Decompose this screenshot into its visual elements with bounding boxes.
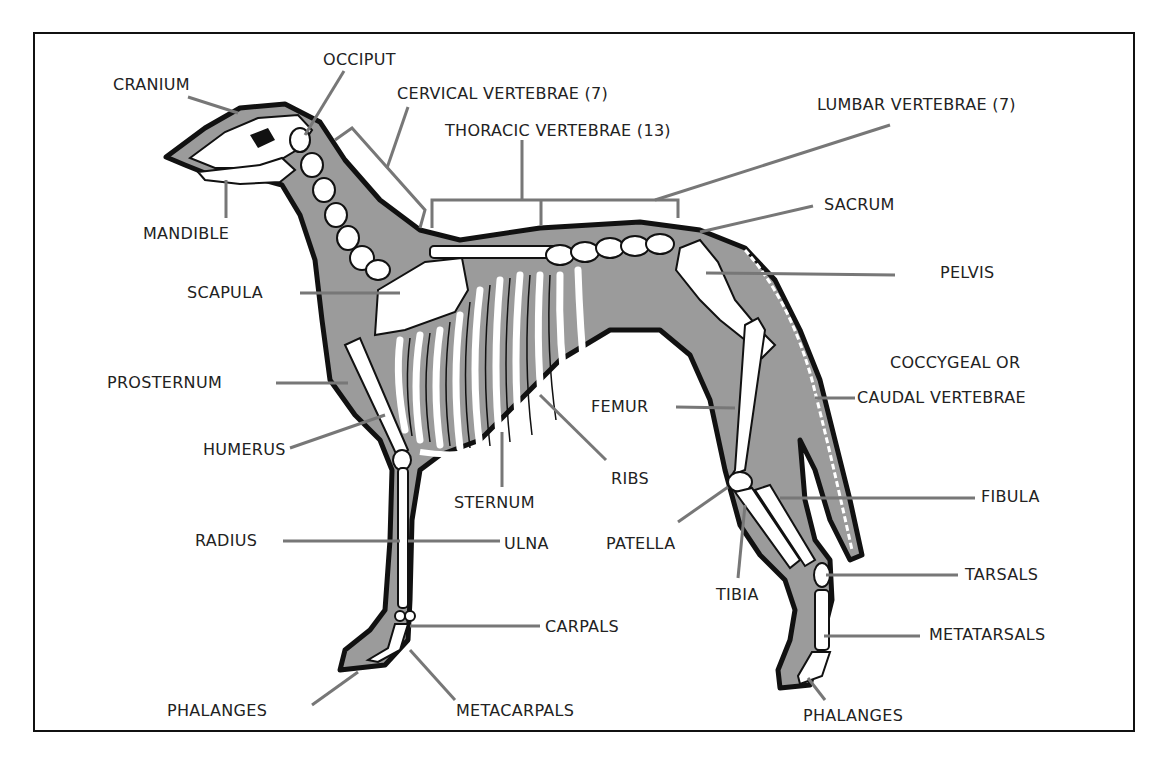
label-sacrum: SACRUM [824, 196, 895, 214]
label-ulna: ULNA [504, 535, 549, 553]
label-femur: FEMUR [591, 398, 648, 416]
label-phalanges-hind: PHALANGES [803, 707, 903, 725]
label-metacarpals: METACARPALS [456, 702, 574, 720]
label-pelvis: PELVIS [940, 264, 995, 282]
label-occiput: OCCIPUT [323, 51, 396, 69]
label-cranium: CRANIUM [113, 76, 190, 94]
label-coccygeal-line2: CAUDAL VERTEBRAE [857, 389, 1026, 407]
thoracic-bracket [432, 140, 678, 228]
label-cervical-vertebrae: CERVICAL VERTEBRAE (7) [397, 85, 608, 103]
label-patella: PATELLA [606, 535, 675, 553]
label-tarsals: TARSALS [965, 566, 1038, 584]
label-ribs: RIBS [611, 470, 649, 488]
label-thoracic-vertebrae: THORACIC VERTEBRAE (13) [445, 122, 671, 140]
label-metatarsals: METATARSALS [929, 626, 1046, 644]
label-coccygeal-line1: COCCYGEAL OR [890, 354, 1020, 372]
label-lumbar-vertebrae: LUMBAR VERTEBRAE (7) [817, 96, 1016, 114]
label-mandible: MANDIBLE [143, 225, 229, 243]
label-carpals: CARPALS [545, 618, 619, 636]
label-sternum: STERNUM [454, 494, 535, 512]
label-humerus: HUMERUS [203, 441, 286, 459]
label-radius: RADIUS [195, 532, 257, 550]
label-tibia: TIBIA [716, 586, 759, 604]
label-phalanges-front: PHALANGES [167, 702, 267, 720]
label-scapula: SCAPULA [187, 284, 263, 302]
label-fibula: FIBULA [981, 488, 1040, 506]
label-prosternum: PROSTERNUM [107, 374, 222, 392]
